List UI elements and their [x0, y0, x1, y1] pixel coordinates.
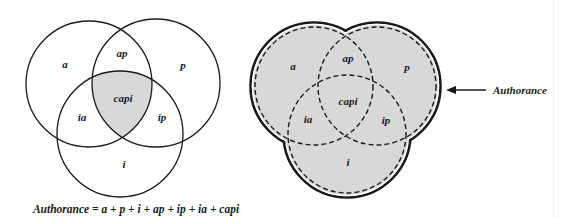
venn-figure: a ap p capi ia ip i Authorance = a + p +… [0, 0, 563, 218]
label-capi: capi [339, 95, 359, 107]
label-ia: ia [304, 113, 313, 125]
label-ap: ap [117, 47, 129, 59]
label-p: p [403, 61, 410, 73]
label-ip: ip [382, 114, 391, 126]
authorance-callout-label: Authorance [492, 84, 547, 96]
left-venn-diagram: a ap p capi ia ip i Authorance = a + p +… [26, 19, 240, 216]
arrow-left-icon [446, 86, 486, 94]
label-ip: ip [158, 111, 167, 123]
label-capi: capi [114, 92, 134, 104]
label-ap: ap [343, 52, 355, 64]
label-ia: ia [78, 111, 87, 123]
label-i: i [122, 158, 126, 170]
label-p: p [179, 59, 186, 71]
label-a: a [290, 60, 296, 72]
authorance-formula: Authorance = a + p + i + ap + ip + ia + … [32, 203, 240, 216]
label-a: a [62, 58, 68, 70]
right-venn-diagram: a ap p capi ia ip i Authorance [251, 23, 547, 198]
page-edge-line [553, 0, 554, 218]
union-shaded-region [253, 25, 438, 195]
